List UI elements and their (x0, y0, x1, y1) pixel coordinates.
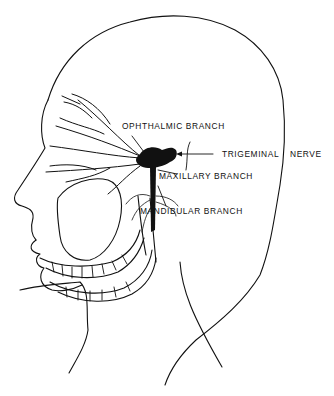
head-outline (48, 16, 284, 385)
neck-back (180, 262, 222, 367)
lips-chin (31, 240, 82, 291)
nerve-label: NERVE (290, 150, 322, 158)
trigeminal-label: TRIGEMINAL (222, 150, 279, 158)
trigeminal-arrowhead (176, 152, 182, 157)
trigeminal-diagram: OPHTHALMIC BRANCH TRIGEMINAL NERVE MAXIL… (0, 0, 334, 396)
ramus (138, 196, 146, 255)
ophthalmic-branch-label: OPHTHALMIC BRANCH (122, 122, 225, 130)
head-line-drawing (0, 0, 334, 396)
face-profile (15, 100, 48, 240)
lower-jaw (50, 250, 152, 293)
mandibular-trunk (150, 166, 156, 232)
mandibular-branch-label: MANDIBULAR BRANCH (140, 207, 243, 215)
upper-teeth (52, 255, 127, 278)
maxillary-branch-label: MAXILLARY BRANCH (159, 172, 253, 180)
lower-jaw-inner (58, 258, 156, 301)
trigeminal-ganglion (136, 147, 177, 168)
